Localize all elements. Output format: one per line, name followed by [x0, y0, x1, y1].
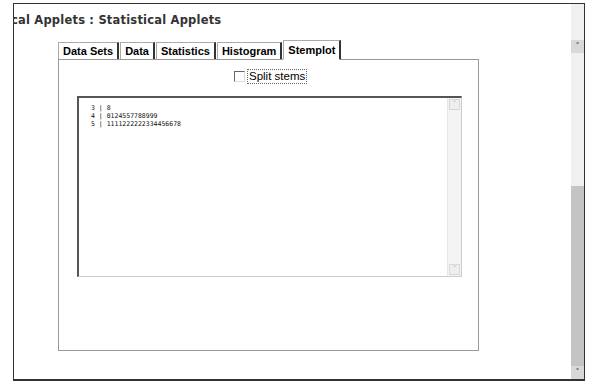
split-stems-row: Split stems [234, 69, 307, 84]
scrollbar-thumb[interactable] [571, 186, 584, 366]
split-stems-checkbox[interactable] [234, 71, 245, 82]
stem-line: 4 | 0124557788999 [91, 112, 181, 120]
textarea-scrollbar[interactable]: ˄ ˅ [447, 98, 461, 276]
tab-stemplot[interactable]: Stemplot [283, 40, 341, 60]
stemplot-lines: 3 | 84 | 01245577889995 | 11112222223344… [91, 104, 181, 128]
tab-statistics[interactable]: Statistics [156, 42, 216, 59]
scroll-up-icon[interactable]: ˄ [571, 40, 584, 53]
stemplot-output-textarea[interactable]: 3 | 84 | 01245577889995 | 11112222223344… [77, 96, 462, 277]
tab-data[interactable]: Data [120, 42, 155, 59]
scroll-down-icon[interactable]: ˅ [571, 366, 584, 379]
tab-bar: Data Sets Data Statistics Histogram Stem… [58, 41, 342, 59]
page-scrollbar[interactable]: ˄ ˅ [571, 4, 584, 379]
applet-window: cal Applets : Statistical Applets Data S… [13, 3, 585, 381]
page-title: cal Applets : Statistical Applets [13, 13, 221, 27]
stemplot-panel: Split stems 3 | 84 | 01245577889995 | 11… [58, 59, 479, 351]
tab-data-sets[interactable]: Data Sets [58, 42, 119, 59]
chevron-up-icon[interactable]: ˄ [449, 99, 460, 110]
tab-histogram[interactable]: Histogram [217, 42, 282, 59]
stem-line: 3 | 8 [91, 104, 181, 112]
chevron-down-icon[interactable]: ˅ [449, 264, 460, 275]
split-stems-label[interactable]: Split stems [247, 69, 307, 84]
stem-line: 5 | 1111222222334456678 [91, 120, 181, 128]
